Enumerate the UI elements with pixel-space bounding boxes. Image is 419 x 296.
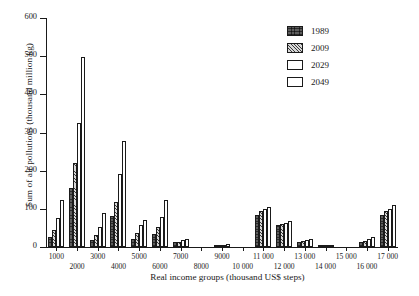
legend-label: 2009 bbox=[311, 43, 329, 53]
x-axis-tick-label: 11 000 bbox=[253, 252, 274, 261]
x-axis-tick bbox=[243, 248, 244, 251]
y-axis-line bbox=[46, 18, 47, 248]
x-axis-tick-label: 16 000 bbox=[356, 262, 377, 271]
x-axis-tick-label: 15 000 bbox=[336, 252, 357, 261]
legend-label: 2049 bbox=[311, 77, 329, 87]
x-axis-tick-label: 1000 bbox=[49, 252, 64, 261]
bar-group bbox=[193, 18, 209, 247]
x-axis-tick-label: 17 000 bbox=[377, 252, 398, 261]
bar bbox=[164, 200, 168, 247]
legend-item: 2009 bbox=[287, 39, 407, 56]
legend-item: 1989 bbox=[287, 22, 407, 39]
y-axis-tick-label: 600 bbox=[24, 12, 37, 21]
bar bbox=[185, 239, 189, 247]
legend-swatch bbox=[287, 43, 303, 53]
legend-swatch bbox=[287, 26, 303, 36]
x-axis-tick bbox=[367, 248, 368, 251]
x-axis-tick bbox=[77, 248, 78, 251]
x-axis-tick bbox=[160, 248, 161, 251]
legend-swatch bbox=[287, 60, 303, 70]
x-axis-tick bbox=[305, 248, 306, 251]
x-axis-tick bbox=[326, 248, 327, 251]
bar bbox=[288, 221, 292, 247]
bar bbox=[60, 200, 64, 247]
x-axis-tick bbox=[284, 248, 285, 251]
x-axis-tick bbox=[181, 248, 182, 251]
y-axis-tick-label: 400 bbox=[24, 88, 37, 97]
bar-group bbox=[152, 18, 168, 247]
x-axis-tick-label: 4000 bbox=[111, 262, 126, 271]
y-axis-tick: 100 bbox=[40, 209, 46, 210]
bar bbox=[392, 205, 396, 247]
bar-group bbox=[255, 18, 271, 247]
bar-group bbox=[131, 18, 147, 247]
y-axis-tick: 500 bbox=[40, 56, 46, 57]
bar-group bbox=[214, 18, 230, 247]
bar bbox=[102, 213, 106, 247]
x-axis-tick bbox=[388, 248, 389, 251]
bar bbox=[309, 239, 313, 247]
legend-label: 1989 bbox=[311, 26, 329, 36]
x-axis-tick-label: 6000 bbox=[152, 262, 167, 271]
x-axis-tick-label: 8000 bbox=[194, 262, 209, 271]
x-axis-tick-label: 2000 bbox=[69, 262, 84, 271]
bar bbox=[122, 141, 126, 247]
x-axis-tick bbox=[118, 248, 119, 251]
x-axis-tick-label: 10 000 bbox=[232, 262, 253, 271]
bar bbox=[267, 207, 271, 247]
bar bbox=[226, 244, 230, 247]
bar-group bbox=[110, 18, 126, 247]
y-axis-tick: 400 bbox=[40, 94, 46, 95]
y-axis-tick: 600 bbox=[40, 18, 46, 19]
bar bbox=[81, 57, 85, 247]
x-axis-tick bbox=[98, 248, 99, 251]
bar-group bbox=[48, 18, 64, 247]
bar-group bbox=[235, 18, 251, 247]
x-axis-tick bbox=[139, 248, 140, 251]
x-axis-tick-label: 3000 bbox=[90, 252, 105, 261]
y-axis-tick: 200 bbox=[40, 171, 46, 172]
x-axis-tick-label: 9000 bbox=[214, 252, 229, 261]
x-axis-tick bbox=[201, 248, 202, 251]
bar bbox=[143, 220, 147, 247]
x-axis-title-text: Real income groups (thousand US$ steps) bbox=[114, 272, 304, 282]
x-axis-title: Real income groups (thousand US$ steps) bbox=[0, 272, 419, 282]
y-axis-tick-label: 0 bbox=[33, 241, 37, 250]
y-axis-tick: 300 bbox=[40, 133, 46, 134]
x-axis-tick-label: 5000 bbox=[132, 252, 147, 261]
y-axis-tick-label: 200 bbox=[24, 165, 37, 174]
bar bbox=[371, 237, 375, 247]
x-axis-tick bbox=[56, 248, 57, 251]
legend-item: 2029 bbox=[287, 56, 407, 73]
bar bbox=[330, 245, 334, 247]
chart-legend: 1989200920292049 bbox=[287, 22, 407, 90]
legend-swatch bbox=[287, 77, 303, 87]
bar-group bbox=[69, 18, 85, 247]
legend-item: 2049 bbox=[287, 73, 407, 90]
bar-group bbox=[173, 18, 189, 247]
x-axis-tick bbox=[263, 248, 264, 251]
y-axis-tick-label: 100 bbox=[24, 203, 37, 212]
y-axis-tick: 0 bbox=[40, 247, 46, 248]
x-axis-tick-label: 12 000 bbox=[274, 262, 295, 271]
x-axis-tick-label: 14 000 bbox=[315, 262, 336, 271]
x-axis-tick-label: 7000 bbox=[173, 252, 188, 261]
x-axis-tick-label: 13 000 bbox=[294, 252, 315, 261]
bar-group bbox=[90, 18, 106, 247]
legend-label: 2029 bbox=[311, 60, 329, 70]
x-axis-tick bbox=[346, 248, 347, 251]
x-axis-tick bbox=[222, 248, 223, 251]
y-axis-tick-label: 300 bbox=[24, 127, 37, 136]
chart-figure: Sum of air pollutions (thousand million … bbox=[0, 0, 419, 296]
y-axis-tick-label: 500 bbox=[24, 50, 37, 59]
